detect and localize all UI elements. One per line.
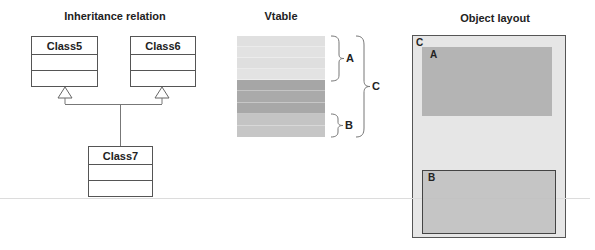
class6-generalization-arrow-icon (155, 87, 169, 98)
vtable-row (237, 91, 325, 103)
vtable-row (237, 47, 325, 58)
brace-a-icon (331, 36, 344, 81)
object-layout-title: Object layout (440, 12, 550, 24)
brace-b-label: B (345, 119, 353, 131)
vtable-row (237, 69, 325, 80)
object-b-region: B (422, 170, 556, 234)
vtable-row (237, 103, 325, 114)
object-a-label: A (430, 49, 437, 60)
vtable-row (237, 126, 325, 137)
brace-a-label: A (346, 52, 354, 64)
vtable-row (237, 58, 325, 69)
vtable-row (237, 114, 325, 126)
class5-generalization-arrow-icon (58, 87, 72, 98)
object-a-region: A (422, 47, 552, 116)
vtable-row (237, 80, 325, 91)
inheritance-connectors (0, 0, 220, 200)
brace-c-label: C (372, 80, 380, 92)
brace-c-icon (356, 36, 370, 137)
vtable (237, 36, 325, 137)
vtable-row (237, 36, 325, 47)
object-b-label: B (428, 172, 435, 183)
brace-b-icon (331, 114, 343, 137)
vtable-title: Vtable (241, 10, 321, 22)
